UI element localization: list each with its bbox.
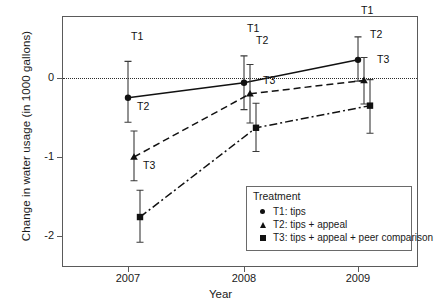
legend-label-t3: T3: tips + appeal + peer comparison	[273, 232, 433, 243]
point-label-t3-2009: T3	[377, 54, 389, 65]
error-bar	[125, 61, 132, 122]
data-point-marker	[253, 125, 259, 131]
point-label-t2-2008: T2	[256, 35, 268, 46]
data-point-marker	[130, 153, 138, 160]
data-point-marker	[355, 57, 361, 63]
point-label-t1-2009: T1	[361, 5, 373, 16]
chart-figure: Change in water usage (in 1000 gallons) …	[0, 0, 441, 306]
legend-title: Treatment	[253, 191, 405, 203]
legend: Treatment T1: tips T2: tips + appeal T3:…	[246, 186, 412, 251]
data-point-marker	[241, 80, 247, 86]
point-label-t3-2008: T3	[263, 75, 275, 86]
legend-item-t1: T1: tips	[259, 206, 405, 217]
data-point-marker	[137, 214, 143, 220]
point-label-t2-2007: T2	[137, 101, 149, 112]
point-label-t3-2007: T3	[143, 160, 155, 171]
legend-label-t1: T1: tips	[273, 206, 306, 217]
data-point-marker	[125, 95, 131, 101]
point-label-t1-2008: T1	[247, 23, 259, 34]
triangle-marker-icon	[259, 220, 268, 229]
legend-label-t2: T2: tips + appeal	[273, 219, 347, 230]
series-layer	[0, 0, 441, 306]
circle-marker-icon	[259, 207, 268, 216]
square-marker-icon	[259, 233, 268, 242]
series-line-t1	[128, 60, 358, 98]
legend-item-t2: T2: tips + appeal	[259, 219, 405, 230]
point-label-t1-2007: T1	[131, 31, 143, 42]
legend-item-t3: T3: tips + appeal + peer comparison	[259, 232, 405, 243]
data-point-marker	[367, 102, 373, 108]
point-label-t2-2009: T2	[370, 29, 382, 40]
